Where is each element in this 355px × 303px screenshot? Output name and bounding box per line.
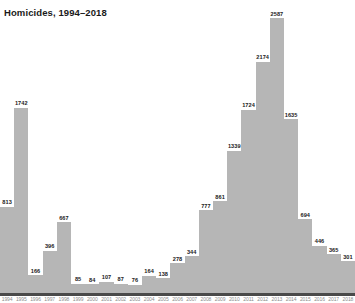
bar-rect[interactable] <box>128 285 142 293</box>
axis-tick-label: 2000 <box>87 296 98 302</box>
bar-rect[interactable] <box>298 219 312 293</box>
bar-group[interactable]: 278 <box>170 0 184 293</box>
bar-group[interactable]: 1635 <box>284 0 298 293</box>
bar-group[interactable]: 301 <box>341 0 355 293</box>
axis-tick-label: 2006 <box>172 296 183 302</box>
bar-group[interactable]: 1742 <box>14 0 28 293</box>
axis-tick-label: 2015 <box>300 296 311 302</box>
axis-tick-label: 2016 <box>314 296 325 302</box>
bar-rect[interactable] <box>170 263 184 293</box>
bar-group[interactable]: 446 <box>312 0 326 293</box>
bar-group[interactable]: 164 <box>142 0 156 293</box>
axis-tick-label: 1996 <box>30 296 41 302</box>
bar-group[interactable]: 365 <box>327 0 341 293</box>
bar-rect[interactable] <box>227 151 241 293</box>
bar-value-label: 344 <box>187 249 196 255</box>
bar-rect[interactable] <box>114 284 128 293</box>
bar-rect[interactable] <box>199 210 213 293</box>
bar-group[interactable]: 84 <box>85 0 99 293</box>
axis-tick-label: 1994 <box>2 296 13 302</box>
bar-rect[interactable] <box>85 284 99 293</box>
bar-value-label: 87 <box>118 276 124 282</box>
bar-group[interactable]: 861 <box>213 0 227 293</box>
bar-value-label: 1742 <box>15 100 28 106</box>
axis-tick-label: 2011 <box>243 296 253 302</box>
axis-tick-label: 1995 <box>16 296 27 302</box>
bar-group[interactable]: 396 <box>43 0 57 293</box>
bar-value-label: 1635 <box>285 112 298 118</box>
bar-rect[interactable] <box>327 254 341 293</box>
bar-rect[interactable] <box>71 284 85 293</box>
bar-rect[interactable] <box>142 276 156 293</box>
bar-rect[interactable] <box>241 110 255 293</box>
bar-rect[interactable] <box>28 275 42 293</box>
bar-rect[interactable] <box>256 62 270 293</box>
bar-value-label: 1339 <box>228 143 241 149</box>
bar-value-label: 777 <box>201 203 210 209</box>
bar-group[interactable]: 1724 <box>241 0 255 293</box>
bar-value-label: 396 <box>45 243 54 249</box>
bar-group[interactable]: 138 <box>156 0 170 293</box>
axis-tick-label: 1998 <box>59 296 70 302</box>
bar-value-label: 278 <box>173 256 182 262</box>
bar-group[interactable]: 813 <box>0 0 14 293</box>
bar-value-label: 164 <box>144 268 153 274</box>
bar-value-label: 166 <box>31 268 40 274</box>
plot-area: 8131742166396667858410787761641382783447… <box>0 0 355 293</box>
bar-rect[interactable] <box>213 201 227 293</box>
bar-value-label: 365 <box>329 247 338 253</box>
bar-rect[interactable] <box>14 108 28 293</box>
axis-tick-label: 2010 <box>229 296 240 302</box>
bar-group[interactable]: 1339 <box>227 0 241 293</box>
bar-group[interactable]: 2587 <box>270 0 284 293</box>
bar-value-label: 2587 <box>271 11 284 17</box>
bar-value-label: 301 <box>343 254 352 260</box>
axis-tick-label: 1997 <box>44 296 55 302</box>
axis-tick-label: 2002 <box>115 296 126 302</box>
bar-rect[interactable] <box>270 18 284 293</box>
bar-value-label: 694 <box>301 212 310 218</box>
bar-value-label: 2174 <box>256 54 269 60</box>
bar-value-label: 76 <box>132 277 138 283</box>
bar-value-label: 84 <box>89 277 95 283</box>
bar-value-label: 861 <box>215 194 224 200</box>
homicides-bar-chart: Homicides, 1994–2018 8131742166396667858… <box>0 0 355 303</box>
bar-group[interactable]: 344 <box>185 0 199 293</box>
axis-tick-label: 2003 <box>130 296 141 302</box>
axis-tick-label: 2004 <box>144 296 155 302</box>
axis-tick-label: 2018 <box>343 296 354 302</box>
bar-group[interactable]: 166 <box>28 0 42 293</box>
bar-value-label: 667 <box>59 215 68 221</box>
axis-tick-label: 2012 <box>257 296 268 302</box>
bar-rect[interactable] <box>341 261 355 293</box>
bar-group[interactable]: 87 <box>114 0 128 293</box>
bar-rect[interactable] <box>185 256 199 293</box>
bar-rect[interactable] <box>99 282 113 293</box>
bar-rect[interactable] <box>312 246 326 293</box>
bar-value-label: 813 <box>2 199 11 205</box>
bar-group[interactable]: 667 <box>57 0 71 293</box>
axis-tick-label: 2013 <box>272 296 283 302</box>
bar-value-label: 85 <box>75 276 81 282</box>
bar-rect[interactable] <box>43 251 57 293</box>
bar-rect[interactable] <box>0 207 14 293</box>
bar-group[interactable]: 694 <box>298 0 312 293</box>
axis-tick-label: 2001 <box>101 296 112 302</box>
axis-tick-label: 2007 <box>186 296 197 302</box>
axis-tick-label: 2005 <box>158 296 169 302</box>
bar-rect[interactable] <box>156 278 170 293</box>
axis-tick-label: 1999 <box>73 296 84 302</box>
axis-tick-label: 2009 <box>215 296 226 302</box>
bar-group[interactable]: 85 <box>71 0 85 293</box>
bar-value-label: 1724 <box>242 102 255 108</box>
bar-value-label: 107 <box>102 274 111 280</box>
bar-group[interactable]: 107 <box>99 0 113 293</box>
axis-tick-label: 2014 <box>286 296 297 302</box>
bar-group[interactable]: 76 <box>128 0 142 293</box>
bar-rect[interactable] <box>57 222 71 293</box>
x-axis-tick-labels: 1994199519961997199819992000200120022003… <box>0 296 355 303</box>
bar-rect[interactable] <box>284 119 298 293</box>
bar-group[interactable]: 2174 <box>256 0 270 293</box>
axis-tick-label: 2008 <box>201 296 212 302</box>
bar-group[interactable]: 777 <box>199 0 213 293</box>
